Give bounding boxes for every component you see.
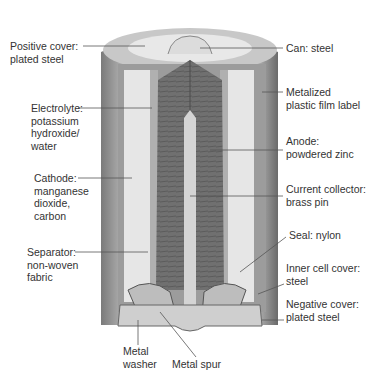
label-seal: Seal: nylon	[289, 229, 341, 242]
label-inner-cell-cover: Inner cell cover: steel	[286, 262, 360, 287]
label-can: Can: steel	[286, 42, 333, 55]
label-metal-washer: Metal washer	[123, 345, 157, 370]
label-separator: Separator: non-woven fabric	[27, 246, 78, 284]
label-current-collector: Current collector: brass pin	[286, 183, 366, 208]
label-positive-cover: Positive cover: plated steel	[10, 40, 78, 65]
brass-pin	[184, 110, 196, 310]
label-anode: Anode: powdered zinc	[286, 135, 354, 160]
label-electrolyte: Electrolyte: potassium hydroxide/ water	[31, 102, 83, 152]
label-metal-spur: Metal spur	[172, 358, 221, 371]
label-film-label: Metalized plastic film label	[286, 86, 360, 111]
label-cathode: Cathode: manganese dioxide, carbon	[34, 172, 89, 222]
label-negative-cover: Negative cover: plated steel	[286, 298, 359, 323]
